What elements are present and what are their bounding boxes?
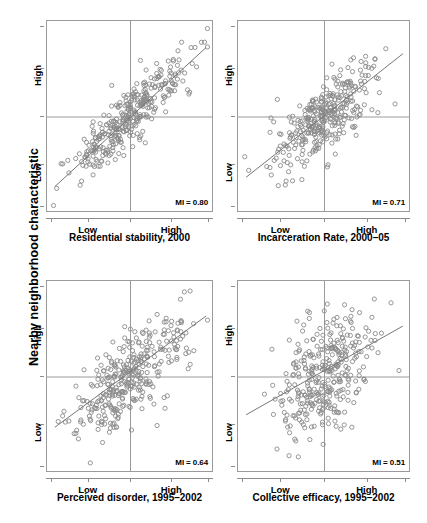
data-point — [82, 137, 86, 141]
data-point — [247, 168, 251, 172]
data-point — [275, 97, 279, 101]
data-point — [171, 331, 175, 335]
data-point — [349, 314, 353, 318]
moran-index-annotation: MI = 0.51 — [372, 458, 405, 467]
y-axis-tick — [231, 466, 235, 467]
data-point — [147, 319, 151, 323]
data-point — [285, 379, 289, 383]
data-point — [272, 120, 276, 124]
y-axis-tick — [231, 116, 235, 117]
data-point — [74, 384, 78, 388]
data-point — [151, 385, 155, 389]
data-point — [194, 65, 198, 69]
data-point — [178, 297, 182, 301]
data-point — [163, 406, 167, 410]
scatter-canvas — [238, 21, 410, 212]
data-point — [364, 91, 368, 95]
data-point — [121, 146, 125, 150]
y-axis-tick — [40, 164, 44, 165]
scatter-canvas — [47, 21, 213, 212]
data-point — [276, 184, 280, 188]
data-point — [95, 356, 99, 360]
data-point — [308, 437, 312, 441]
data-point — [318, 326, 322, 330]
y-tick-label-low: Low — [32, 423, 43, 442]
data-point — [325, 320, 329, 324]
data-point — [101, 409, 105, 413]
data-point — [155, 61, 159, 65]
data-point — [300, 329, 304, 333]
data-point — [367, 329, 371, 333]
data-point — [295, 319, 299, 323]
data-point — [166, 329, 170, 333]
data-point — [366, 73, 370, 77]
data-point — [350, 70, 354, 74]
data-point — [328, 338, 332, 342]
data-point — [79, 179, 83, 183]
y-axis-tick — [40, 206, 44, 207]
data-point — [66, 158, 70, 162]
data-point — [128, 345, 132, 349]
data-point — [362, 103, 366, 107]
data-point — [181, 79, 185, 83]
data-point — [389, 301, 393, 305]
data-point — [370, 108, 374, 112]
data-point — [301, 148, 305, 152]
plot-area: MI = 0.64 — [46, 280, 213, 472]
y-axis-tick — [40, 328, 44, 329]
data-point — [205, 26, 209, 30]
data-point — [373, 331, 377, 335]
data-point — [262, 392, 266, 396]
data-point — [134, 336, 138, 340]
data-point — [168, 65, 172, 69]
y-tick-label-low: Low — [223, 163, 234, 182]
data-point — [397, 368, 401, 372]
data-point — [169, 324, 173, 328]
data-point — [133, 330, 137, 334]
data-point — [325, 302, 329, 306]
data-point — [177, 58, 181, 62]
data-point — [106, 161, 110, 165]
data-point — [78, 183, 82, 187]
data-point — [87, 143, 91, 147]
data-point — [354, 379, 358, 383]
data-point — [182, 290, 186, 294]
panel-perceived-disorder: MI = 0.64LowHighLowHigh — [46, 280, 213, 523]
data-point — [315, 344, 319, 348]
data-point — [357, 369, 361, 373]
data-point — [305, 339, 309, 343]
data-point — [359, 59, 363, 63]
data-point — [295, 157, 299, 161]
data-point — [343, 317, 347, 321]
x-axis-tick — [367, 218, 368, 222]
data-point — [370, 315, 374, 319]
plot-area: MI = 0.71 — [237, 20, 410, 212]
data-point — [186, 367, 190, 371]
x-axis-tick — [208, 478, 209, 482]
data-point — [179, 40, 183, 44]
data-point — [122, 153, 126, 157]
y-axis-tick — [231, 164, 235, 165]
data-point — [379, 331, 383, 335]
data-point — [98, 122, 102, 126]
data-point — [192, 349, 196, 353]
data-point — [299, 359, 303, 363]
data-point — [350, 359, 354, 363]
data-point — [106, 397, 110, 401]
panel-caption: Collective efficacy, 1995–2002 — [207, 492, 427, 503]
data-point — [300, 178, 304, 182]
data-point — [140, 370, 144, 374]
data-point — [86, 406, 90, 410]
data-point — [372, 297, 376, 301]
data-point — [350, 326, 354, 330]
x-axis-tick — [280, 218, 281, 222]
data-point — [51, 203, 55, 207]
data-point — [97, 414, 101, 418]
data-point — [317, 375, 321, 379]
data-point — [361, 365, 365, 369]
x-axis-tick — [280, 478, 281, 482]
x-axis-tick — [88, 218, 89, 222]
x-axis-tick — [242, 218, 243, 222]
data-point — [307, 316, 311, 320]
data-point — [88, 461, 92, 465]
